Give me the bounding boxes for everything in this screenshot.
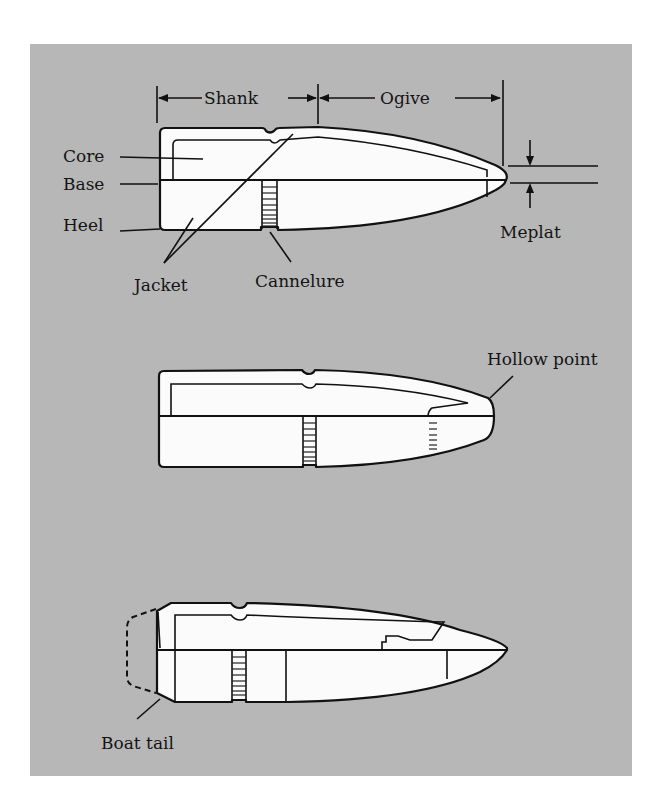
label-ogive: Ogive (380, 88, 430, 108)
label-core: Core (63, 146, 104, 166)
bullet-1-lower-half (160, 180, 506, 230)
bullet-3-dashed-base-outline (127, 609, 156, 693)
bullet-3-lower-half (157, 650, 507, 702)
label-cannelure: Cannelure (255, 271, 345, 291)
meplat-dimension (508, 140, 598, 208)
bullet-1-upper-half (160, 127, 507, 180)
bullet-3-diagram: Boat tail (101, 603, 507, 753)
label-heel: Heel (63, 215, 103, 235)
bullet-1-diagram: Shank Ogive Meplat Core Base Heel Jacket… (63, 80, 598, 295)
label-hollow-point: Hollow point (487, 349, 598, 369)
label-shank: Shank (204, 88, 259, 108)
label-jacket: Jacket (132, 275, 188, 295)
bullet-2-upper-half (159, 370, 494, 416)
label-boat-tail: Boat tail (101, 733, 174, 753)
label-meplat: Meplat (500, 222, 561, 242)
bullet-anatomy-figure: Shank Ogive Meplat Core Base Heel Jacket… (0, 0, 672, 805)
label-base: Base (63, 174, 104, 194)
bullet-3-upper-half (157, 603, 507, 650)
bullet-2-diagram: Hollow point (159, 349, 598, 467)
bullet-2-lower-half (159, 416, 494, 467)
